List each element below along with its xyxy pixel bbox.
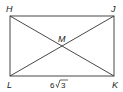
vertex-label-j: J: [110, 4, 116, 14]
vertex-label-l: L: [7, 80, 12, 90]
vertex-label-h: H: [6, 4, 13, 14]
side-length-lk: 6 3: [50, 80, 68, 90]
vertex-label-k: K: [112, 80, 119, 90]
measurement-coefficient: 6: [50, 81, 55, 90]
measurement-radicand: 3: [61, 81, 66, 90]
rectangle-diagram: H J K L M 6 3: [0, 0, 123, 92]
intersection-label-m: M: [58, 34, 66, 44]
